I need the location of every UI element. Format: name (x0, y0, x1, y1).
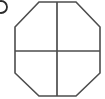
octagon-figure-svg (0, 0, 105, 99)
figure-label-marker-icon (0, 1, 7, 13)
figure-container (0, 0, 105, 99)
